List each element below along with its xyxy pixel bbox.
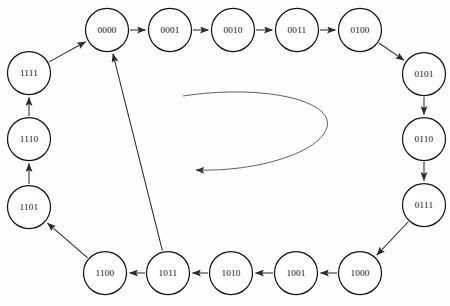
state-node-label: 1010: [221, 268, 240, 278]
state-node-label: 0111: [415, 200, 434, 210]
state-node-label: 1011: [159, 268, 178, 278]
state-node-label: 0101: [414, 69, 433, 79]
state-node-label: 0001: [160, 25, 179, 35]
state-node-label: 1100: [96, 268, 115, 278]
state-node-1011[interactable]: 1011: [147, 252, 190, 295]
state-node-label: 1000: [350, 268, 369, 278]
state-node-1010[interactable]: 1010: [210, 252, 253, 295]
state-node-label: 1110: [20, 134, 39, 144]
state-node-0101[interactable]: 0101: [403, 53, 446, 96]
edge-1100-to-1101: [48, 223, 88, 258]
edge-1011-to-0000: [113, 54, 162, 251]
state-transition-diagram: 0000000100100011010001010110011110001001…: [0, 0, 450, 306]
state-node-label: 1101: [20, 202, 39, 212]
state-node-1000[interactable]: 1000: [339, 252, 382, 295]
state-node-label: 0010: [223, 25, 242, 35]
edge-1111-to-0000: [49, 42, 85, 62]
state-node-0011[interactable]: 0011: [276, 9, 319, 52]
edges-layer: [29, 30, 424, 273]
state-node-0110[interactable]: 0110: [403, 118, 446, 161]
state-diagram-canvas: 0000000100100011010001010110011110001001…: [0, 0, 450, 306]
state-node-1001[interactable]: 1001: [275, 252, 318, 295]
state-node-0010[interactable]: 0010: [212, 9, 255, 52]
state-node-0100[interactable]: 0100: [339, 9, 382, 52]
state-node-1111[interactable]: 1111: [8, 52, 51, 95]
edge-0100-to-0101: [379, 43, 404, 60]
state-node-1100[interactable]: 1100: [84, 252, 127, 295]
state-node-label: 0100: [350, 25, 369, 35]
state-node-1101[interactable]: 1101: [8, 186, 51, 229]
state-node-label: 0011: [288, 25, 307, 35]
state-node-0111[interactable]: 0111: [403, 184, 446, 227]
state-node-0001[interactable]: 0001: [149, 9, 192, 52]
state-node-0000[interactable]: 0000: [86, 9, 129, 52]
center-curved-arrow: [183, 92, 327, 170]
edge-0111-to-1000: [377, 222, 408, 255]
state-node-label: 0000: [97, 25, 116, 35]
state-node-1110[interactable]: 1110: [8, 118, 51, 161]
state-node-label: 1001: [286, 268, 305, 278]
state-node-label: 1111: [20, 68, 38, 78]
state-node-label: 0110: [415, 134, 434, 144]
